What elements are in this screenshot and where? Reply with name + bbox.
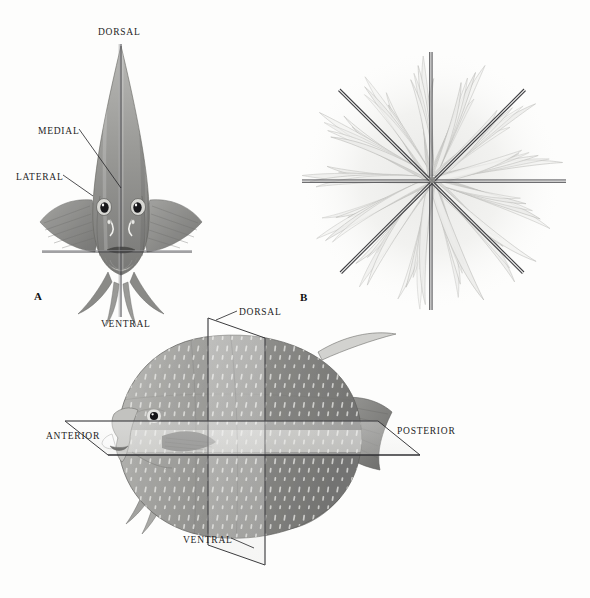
panel-c-illustration [65,311,420,565]
anatomy-figure-plate: DORSAL MEDIAL LATERAL VENTRAL DORSAL ANT… [0,0,590,598]
scale-dash [145,336,147,340]
scale-dash [135,336,137,340]
label-anterior-c: ANTERIOR [46,431,100,441]
scale-dash [341,364,343,368]
label-dorsal-a: DORSAL [98,27,141,37]
scale-dash [308,524,310,529]
scale-dash [140,364,142,368]
right-pectoral-fin [145,200,202,252]
scale-dash [360,515,363,521]
scale-dash [140,533,142,537]
scale-dash [312,345,315,351]
scale-dash [356,392,358,396]
leader-dorsal-c [216,311,237,320]
right-pelvic-fin [130,272,164,314]
scale-dash [317,524,319,529]
left-eye-a [97,199,112,216]
scale-dash [370,364,372,368]
scale-dash [139,515,142,521]
panel-letter-a: A [34,290,42,302]
scale-dash [164,524,166,529]
scale-dash [370,345,372,351]
scale-dash [370,533,372,537]
scale-dash [312,533,314,537]
leader-lateral-a [63,175,93,196]
panel-a-illustration [40,44,202,326]
scale-dash [356,355,358,360]
scale-dash [144,355,147,360]
scale-dash [331,515,334,521]
scale-dash [336,355,339,360]
frontal-plane-c [65,421,420,455]
scale-dash [360,364,362,368]
scale-dash [355,374,358,380]
scale-dash [366,505,368,509]
scale-dash [298,336,300,340]
scale-dash [346,374,348,380]
left-nare [107,220,111,225]
label-dorsal-c: DORSAL [239,307,282,317]
scale-dash [360,345,363,351]
scale-dash [355,486,358,492]
scale-dash [183,336,185,340]
scale-dash [351,515,353,521]
scale-dash [322,533,324,537]
panel-letter-b: B [300,291,307,303]
scale-dash [346,524,348,529]
scale-dash [289,336,291,340]
right-nare [131,220,135,225]
scale-dash [341,515,344,521]
scale-dash [332,364,334,368]
left-pectoral-fin [40,200,97,252]
scale-dash [126,336,128,340]
scale-dash [135,524,137,529]
scale-dash [370,496,372,501]
scale-dash [293,533,295,537]
scale-dash [139,345,142,351]
scale-dash [351,496,353,501]
scale-dash [284,533,286,537]
scale-dash [178,533,180,537]
scale-dash [149,533,151,537]
scale-dash [149,345,152,351]
dorsal-filament [318,333,396,360]
label-medial-a: MEDIAL [38,126,79,136]
scale-dash [130,345,132,351]
scale-dash [303,533,305,537]
scale-dash [125,374,127,380]
scale-dash [130,496,132,501]
scale-dash [365,355,367,360]
label-ventral-a: VENTRAL [101,319,151,329]
scale-dash [336,524,339,529]
scale-dash [365,374,367,380]
label-lateral-a: LATERAL [16,172,63,182]
scale-dash [130,533,132,537]
scale-dash [360,496,362,501]
scale-dash [365,524,367,529]
scale-dash [154,336,156,340]
panel-b-illustration [302,52,566,310]
scale-dash [365,486,367,492]
scale-dash [126,505,128,509]
scale-dash [370,515,372,521]
scale-dash [351,533,353,537]
scale-dash [360,383,362,388]
scale-dash [360,533,362,537]
scale-dash [346,355,348,360]
scale-dash [351,364,353,368]
scale-dash [370,477,372,481]
scale-dash [351,383,353,388]
scale-dash [346,505,348,509]
scale-dash [279,336,281,340]
scale-dash [356,524,358,529]
scale-dash [130,364,132,368]
scale-dash [308,336,310,340]
scale-dash [356,505,358,509]
scale-dash [341,533,343,537]
scale-dash [332,533,334,537]
scale-dash [159,345,161,351]
scale-dash [174,336,176,340]
scale-dash [318,336,320,340]
scale-dash [164,336,166,340]
scale-dash [125,486,127,492]
